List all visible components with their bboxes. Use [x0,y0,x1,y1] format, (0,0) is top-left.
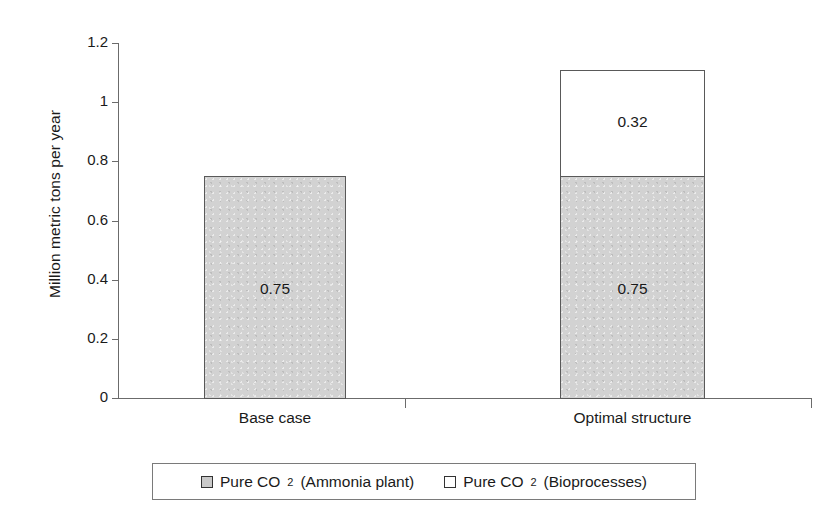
y-tick-0 [112,398,119,399]
y-tick-label-0.4: 0.4 [62,270,108,287]
y-tick-1.0 [112,102,119,103]
x-tick-end [811,399,812,408]
y-tick-1.2 [112,43,119,44]
y-tick-label-1.2: 1.2 [62,33,108,50]
y-tick-label-0.8: 0.8 [62,151,108,168]
bar-value-optimal-structure-ammonia-plant: 0.75 [560,280,705,298]
y-tick-0.2 [112,339,119,340]
legend-item-ammonia-plant[interactable]: Pure CO2 (Ammonia plant) [201,473,414,491]
legend-label-ammonia-plant-tail: (Ammonia plant) [300,473,414,491]
chart-container: Million metric tons per year 1.2 1 0.8 0… [0,0,835,515]
y-tick-label-1.0: 1 [62,92,108,109]
bar-value-base-case-ammonia-plant: 0.75 [204,280,346,298]
legend-item-bioprocesses[interactable]: Pure CO2 (Bioprocesses) [444,473,647,491]
legend-label-bioprocesses-subscript: 2 [530,476,536,488]
y-tick-label-0.6: 0.6 [62,211,108,228]
x-axis-label-optimal-structure: Optimal structure [530,409,735,427]
legend-swatch-filled-icon [201,476,213,488]
legend-label-ammonia-plant-subscript: 2 [287,476,293,488]
legend-swatch-hollow-icon [444,476,456,488]
legend-label-bioprocesses-prefix: Pure CO [463,473,523,491]
y-tick-label-0.2: 0.2 [62,329,108,346]
legend: Pure CO2 (Ammonia plant) Pure CO2 (Biopr… [152,463,696,500]
bar-value-optimal-structure-bioprocesses: 0.32 [560,113,705,131]
x-axis-label-base-case: Base case [175,409,375,427]
y-tick-label-0: 0 [62,388,108,405]
legend-label-bioprocesses-tail: (Bioprocesses) [544,473,647,491]
legend-label-ammonia-plant-prefix: Pure CO [220,473,280,491]
y-tick-0.6 [112,221,119,222]
y-tick-0.4 [112,280,119,281]
y-tick-0.8 [112,161,119,162]
x-tick-category-separator [405,399,406,408]
